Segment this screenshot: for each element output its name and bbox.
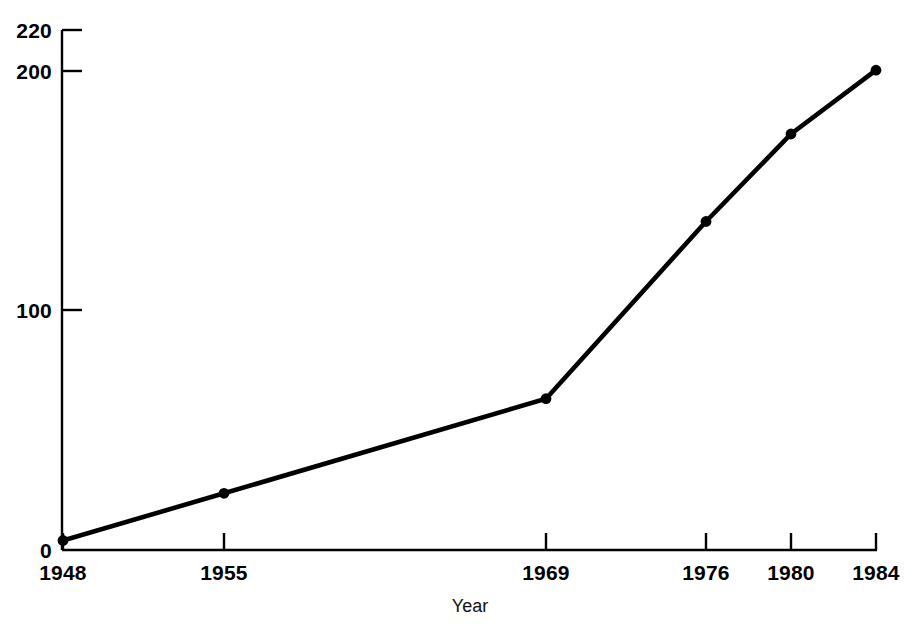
chart-container: 220 200 100 0 1948 1955 1969 1976 1980 1… (0, 0, 912, 630)
y-tick-label-100: 100 (0, 300, 52, 321)
data-point-1976 (701, 216, 712, 227)
data-point-1969 (541, 393, 552, 404)
data-point-1955 (219, 488, 230, 499)
data-point-1980 (786, 129, 797, 140)
line-chart-plot (0, 0, 912, 630)
x-tick-label-1948: 1948 (13, 562, 113, 583)
data-point-markers (58, 65, 882, 546)
y-tick-label-220: 220 (0, 20, 52, 41)
x-tick-label-1955: 1955 (174, 562, 274, 583)
data-point-1948 (58, 535, 69, 546)
y-tick-label-200: 200 (0, 61, 52, 82)
data-point-1984 (871, 65, 882, 76)
y-tick-label-0: 0 (0, 540, 52, 561)
x-tick-label-1984: 1984 (826, 562, 912, 583)
x-axis-title: Year (395, 597, 545, 615)
x-tick-label-1969: 1969 (496, 562, 596, 583)
data-series-line (63, 70, 876, 540)
